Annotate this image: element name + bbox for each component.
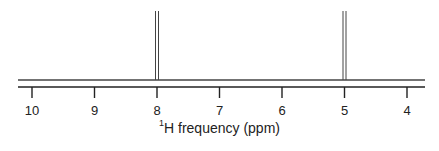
x-axis-tick-label: 5 <box>341 103 348 118</box>
x-axis-title-text: H frequency (ppm) <box>164 120 280 136</box>
x-axis-tick-label: 8 <box>153 103 160 118</box>
x-axis-title-superscript: 1 <box>159 118 164 128</box>
spectrum-peaks <box>156 11 347 80</box>
x-axis-tick-label: 4 <box>403 103 410 118</box>
x-axis: 10987654 <box>18 87 425 118</box>
x-axis-tick-label: 10 <box>25 103 39 118</box>
x-axis-tick-label: 7 <box>216 103 223 118</box>
x-axis-title: 1H frequency (ppm) <box>0 119 439 136</box>
x-axis-tick-label: 9 <box>91 103 98 118</box>
x-axis-tick-label: 6 <box>278 103 285 118</box>
